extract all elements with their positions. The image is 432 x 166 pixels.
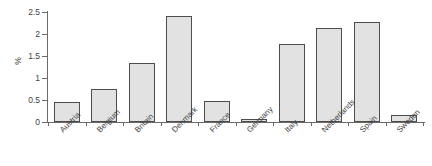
x-tick [236,122,237,126]
y-tick-label: 0.5 [28,96,40,105]
x-tick [386,122,387,126]
plot-area [48,12,423,122]
x-tick [123,122,124,126]
bar [354,22,380,122]
x-tick [273,122,274,126]
y-axis-title: % [13,57,23,65]
y-tick-label: 2.5 [28,8,40,17]
bar-chart: % 00.511.522.5 AustriaBelgiumBritainDenm… [0,0,432,166]
y-tick-label: 1.5 [28,52,40,61]
x-tick [348,122,349,126]
bar [166,16,192,122]
x-tick [161,122,162,126]
x-tick [86,122,87,126]
x-tick [311,122,312,126]
x-tick [423,122,424,126]
y-tick-label: 1 [35,74,40,83]
x-tick [48,122,49,126]
bar [279,44,305,122]
y-tick-label: 2 [35,30,40,39]
y-tick-label: 0 [35,118,40,127]
x-tick [198,122,199,126]
